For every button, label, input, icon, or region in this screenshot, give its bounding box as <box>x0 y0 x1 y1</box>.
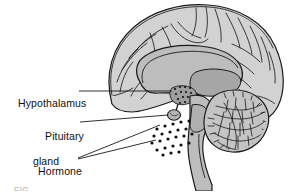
hormone-dot <box>174 135 177 138</box>
label-hormone-line1: Hormone <box>38 165 82 177</box>
hormone-dot <box>152 134 155 137</box>
hormone-dot <box>177 150 180 153</box>
hormone-dot <box>184 127 187 130</box>
hormone-dot <box>187 119 190 122</box>
hormone-dot <box>150 141 153 144</box>
hormone-dot <box>155 148 158 151</box>
hormone-dot <box>187 141 190 144</box>
hormone-molecule-dots <box>150 119 193 156</box>
hormone-dot <box>179 143 182 146</box>
hormone-dot <box>171 122 174 125</box>
leader-hormone-upper <box>78 125 160 158</box>
label-hypothalamus: Hypothalamus <box>6 84 86 122</box>
label-hypothalamus-text: Hypothalamus <box>18 97 86 109</box>
figure-caption-partial: FIG. <box>14 185 32 191</box>
hormone-dot <box>190 132 193 135</box>
label-hormone-molecules: Hormone molecules <box>26 152 82 191</box>
hormone-dot <box>168 130 171 133</box>
label-pituitary-line1: Pituitary <box>45 130 84 142</box>
leader-hormone-lower <box>78 140 156 159</box>
leader-pituitary <box>80 115 168 122</box>
hormone-dot <box>182 134 185 137</box>
hormone-dot <box>163 146 166 149</box>
hormone-dot <box>158 139 161 142</box>
pituitary-gland <box>168 104 181 120</box>
brain-diagram-figure: Hypothalamus Pituitary gland Hormone mol… <box>0 0 290 191</box>
label-hormone-line2: molecules <box>26 190 82 192</box>
hormone-dot <box>171 144 174 147</box>
hormone-dot <box>176 128 179 131</box>
hormone-dot <box>166 137 169 140</box>
hormone-dot <box>155 127 158 130</box>
hormone-dot <box>161 153 164 156</box>
hormone-dot <box>169 151 172 154</box>
hormone-dot <box>179 120 182 123</box>
hormone-dot <box>163 124 166 127</box>
cerebellum <box>204 90 269 153</box>
hormone-dot <box>160 132 163 135</box>
